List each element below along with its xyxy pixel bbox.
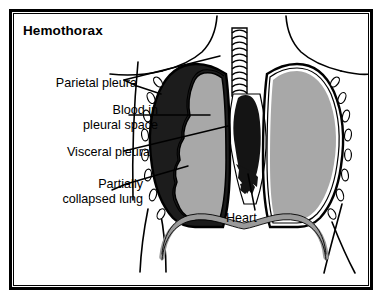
abdomen-right-contour-b	[332, 222, 355, 273]
rib-left-8	[155, 207, 166, 220]
right-lung-tissue	[270, 71, 336, 220]
neck-right-contour	[286, 16, 341, 71]
hemothorax-figure: Hemothorax Parietal pleura Blood in pleu…	[0, 0, 383, 300]
rib-right-3	[341, 109, 351, 122]
neck-left-contour	[162, 16, 217, 71]
label-heart: Heart	[226, 211, 257, 225]
rib-left-6	[144, 169, 152, 182]
left-hemithorax-group	[150, 64, 230, 227]
page-title: Hemothorax	[23, 23, 103, 38]
shoulder-right-contour	[341, 71, 368, 74]
label-partially-collapsed-lung: Partially collapsed lung	[62, 177, 143, 207]
label-blood-in-pleural-space: Blood in pleural space	[83, 103, 158, 133]
rib-right-2	[336, 91, 347, 104]
mediastinum	[229, 94, 266, 204]
rib-right-6	[341, 169, 349, 182]
rib-right-5	[345, 149, 352, 161]
label-visceral-pleura: Visceral pleura	[67, 145, 150, 160]
trachea	[232, 28, 247, 96]
abdomen-left-contour-a	[140, 209, 148, 272]
rib-left-7	[148, 188, 158, 201]
rib-right-4	[344, 129, 352, 142]
right-lung-group	[263, 64, 343, 227]
rib-right-8	[326, 207, 337, 220]
label-parietal-pleura: Parietal pleura	[56, 76, 137, 91]
rib-right-7	[335, 188, 345, 201]
